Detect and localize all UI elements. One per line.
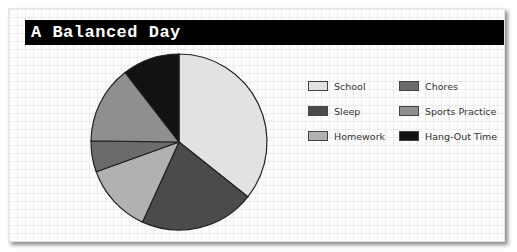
legend-item-sports-practice: Sports Practice bbox=[399, 104, 496, 118]
legend: School Sleep Homework Chores Sports Prac… bbox=[9, 9, 504, 241]
legend-label: Homework bbox=[334, 131, 385, 142]
legend-item-hang-out-time: Hang-Out Time bbox=[399, 129, 497, 143]
legend-swatch bbox=[308, 131, 328, 141]
legend-swatch bbox=[308, 106, 328, 116]
legend-swatch bbox=[399, 81, 419, 91]
legend-swatch bbox=[399, 131, 419, 141]
legend-label: Sports Practice bbox=[425, 106, 496, 117]
legend-label: Hang-Out Time bbox=[425, 131, 497, 142]
legend-label: Chores bbox=[425, 81, 458, 92]
legend-item-chores: Chores bbox=[399, 79, 458, 93]
legend-label: Sleep bbox=[334, 106, 360, 117]
legend-item-school: School bbox=[308, 79, 366, 93]
legend-item-sleep: Sleep bbox=[308, 104, 360, 118]
legend-item-homework: Homework bbox=[308, 129, 385, 143]
chart-card: A Balanced Day School Sleep Homework Cho… bbox=[8, 8, 505, 242]
legend-swatch bbox=[308, 81, 328, 91]
legend-label: School bbox=[334, 81, 366, 92]
legend-swatch bbox=[399, 106, 419, 116]
